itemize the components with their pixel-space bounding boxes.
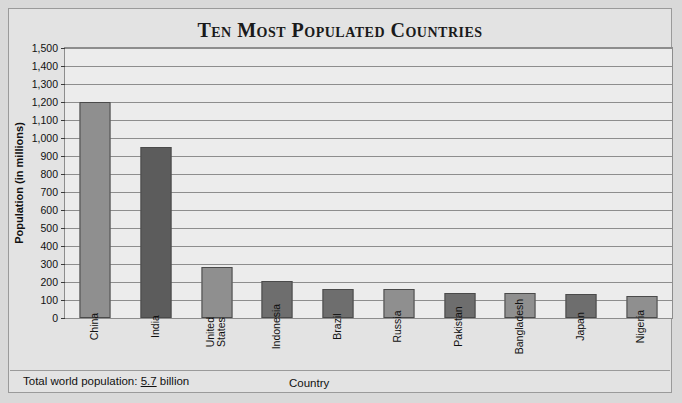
- bar-slot: [186, 48, 247, 318]
- bar-slot: [490, 48, 551, 318]
- chart-figure: Ten Most Populated Countries Population …: [8, 8, 672, 393]
- y-axis-tick-label: 1,500: [32, 42, 58, 54]
- y-axis-tick-label: 400: [40, 240, 58, 252]
- chart-title: Ten Most Populated Countries: [9, 19, 671, 42]
- bar: [80, 102, 111, 318]
- footnote: Total world population: 5.7 billion: [23, 375, 189, 387]
- bar-series: [65, 48, 672, 318]
- bar-slot: [308, 48, 369, 318]
- y-axis-tick-label: 500: [40, 222, 58, 234]
- x-axis-tick-label-text: Pakistan: [453, 306, 464, 346]
- y-axis-tick-label: 900: [40, 150, 58, 162]
- bar-slot: [126, 48, 187, 318]
- bar: [141, 147, 172, 318]
- y-axis-tick: [61, 318, 65, 319]
- y-axis-title-label: Population (in millions): [13, 122, 25, 244]
- y-axis-tick-label: 800: [40, 168, 58, 180]
- x-axis-tick-label-text: India: [149, 315, 160, 338]
- x-axis-tick-label-text: Indonesia: [271, 304, 282, 350]
- bar-slot: [65, 48, 126, 318]
- bar-slot: [429, 48, 490, 318]
- x-axis-tick-label-text: United States: [205, 317, 227, 347]
- y-axis-tick-label: 1,000: [32, 132, 58, 144]
- bar-slot: [369, 48, 430, 318]
- y-axis-tick-label: 300: [40, 258, 58, 270]
- y-axis-tick-label: 0: [52, 312, 58, 324]
- y-axis-tick-label: 1,200: [32, 96, 58, 108]
- bar: [201, 267, 232, 318]
- footer-divider: [10, 370, 670, 371]
- bar-slot: [611, 48, 672, 318]
- footnote-suffix: billion: [157, 375, 190, 387]
- x-axis-tick-label-text: China: [89, 313, 100, 340]
- plot-area: 1,5001,4001,3001,2001,1001,0009008007006…: [64, 47, 673, 319]
- x-axis-tick-label-text: Bangladesh: [514, 299, 525, 354]
- x-axis-tick-label-text: Nigeria: [635, 310, 646, 343]
- y-axis-tick-label: 1,400: [32, 60, 58, 72]
- y-axis-tick-label: 200: [40, 276, 58, 288]
- x-axis-tick-label-text: Russia: [392, 311, 403, 343]
- bar-slot: [551, 48, 612, 318]
- x-axis-tick-label-text: Japan: [574, 312, 585, 341]
- y-axis-tick-label: 600: [40, 204, 58, 216]
- bar-slot: [247, 48, 308, 318]
- y-axis-tick-label: 1,300: [32, 78, 58, 90]
- y-axis-tick-label: 100: [40, 294, 58, 306]
- x-axis-title: Country: [289, 377, 329, 389]
- y-axis-tick-label: 1,100: [32, 114, 58, 126]
- y-axis-tick-label: 700: [40, 186, 58, 198]
- footnote-prefix: Total world population:: [23, 375, 141, 387]
- footnote-value: 5.7: [141, 375, 157, 387]
- x-axis-tick-label-text: Brazil: [332, 313, 343, 339]
- y-axis-title: Population (in millions): [11, 47, 27, 319]
